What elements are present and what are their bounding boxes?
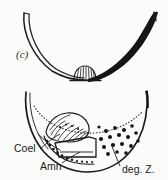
upper-band-edge-curve [89,12,156,79]
upper-inner-left-curve [29,14,84,78]
degenerating-zone-leader-line [112,146,120,166]
panel-tag: (c) [16,48,29,61]
lower-dotted-arc [34,106,142,133]
degenerating-zone-granules [97,124,139,156]
upper-left-arm-cap [24,13,29,14]
figure-panel-c: (c) [0,0,168,180]
label-amnion: Amn [40,160,62,172]
upper-cross-section: (c) [16,12,158,82]
lower-cross-section: Coel Amn deg. Z. [14,91,155,175]
label-degenerating-zone: deg. Z. [122,163,155,175]
embryology-line-drawing: (c) [0,0,168,180]
upper-outer-left-curve [24,13,84,80]
lower-right-wall-tip [145,91,149,108]
upper-dark-band [88,12,158,82]
label-coelom: Coel [14,142,36,154]
